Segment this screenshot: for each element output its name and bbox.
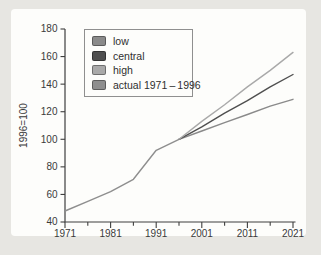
y-tick-label: 80: [46, 161, 58, 172]
chart-figure: 4060801001201401601801971198119912001201…: [0, 0, 321, 255]
legend-swatch-actual-icon: [92, 80, 106, 90]
x-tick-label: 2001: [191, 228, 214, 239]
series-line-2: [179, 52, 293, 139]
y-axis-title: 1996=100: [18, 103, 29, 148]
legend-label-actual: actual 1971 – 1996: [113, 79, 201, 91]
y-tick-label: 180: [41, 23, 58, 34]
y-tick-label: 140: [41, 79, 58, 90]
x-tick-label: 1991: [145, 228, 168, 239]
y-tick-label: 60: [46, 189, 58, 200]
legend-label-central: central: [113, 50, 145, 62]
legend-swatch-low-icon: [92, 36, 106, 46]
legend-item-high: high: [92, 64, 192, 76]
legend-swatch-high-icon: [92, 65, 106, 75]
series-line-3: [65, 139, 179, 211]
legend-swatch-central-icon: [92, 51, 106, 61]
series-line-0: [179, 99, 293, 139]
chart-card: 4060801001201401601801971198119912001201…: [11, 9, 306, 236]
legend-label-low: low: [113, 35, 129, 47]
y-tick-label: 160: [41, 51, 58, 62]
legend-label-high: high: [113, 64, 133, 76]
y-tick-label: 40: [46, 216, 58, 227]
y-tick-label: 120: [41, 106, 58, 117]
x-tick-label: 1971: [54, 228, 77, 239]
legend-item-low: low: [92, 35, 192, 47]
legend-item-actual: actual 1971 – 1996: [92, 79, 192, 91]
legend-item-central: central: [92, 50, 192, 62]
x-tick-label: 1981: [99, 228, 122, 239]
x-tick-label: 2011: [237, 228, 259, 239]
legend: low central high actual 1971 – 1996: [84, 29, 193, 97]
y-tick-label: 100: [41, 134, 58, 145]
x-tick-label: 2021: [282, 228, 305, 239]
